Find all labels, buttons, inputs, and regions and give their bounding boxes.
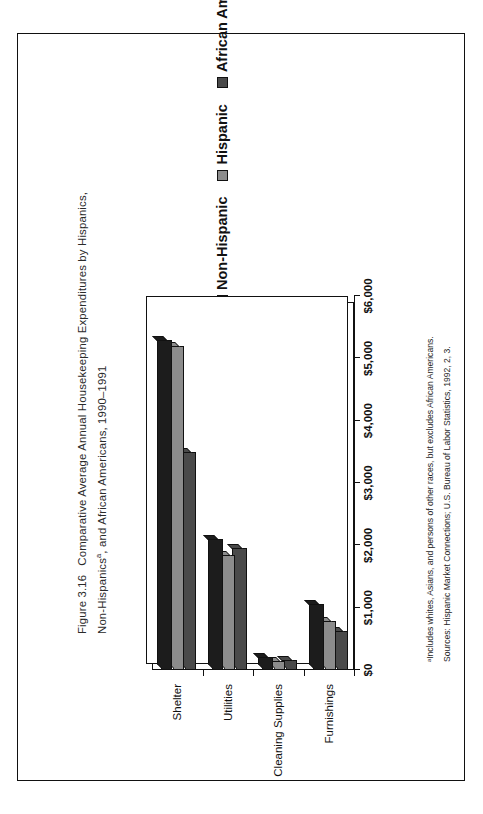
value-tick-label: $4,000 [362, 403, 374, 438]
bar-top-face [309, 600, 314, 669]
bar-african-american-cleaning-supplies [286, 660, 297, 670]
bar-non-hispanic-shelter [161, 340, 172, 670]
value-tick-label: $0 [362, 664, 374, 677]
value-tick-label: $3,000 [362, 465, 374, 500]
legend-label-hispanic: Hispanic [214, 104, 230, 164]
value-tick [354, 607, 360, 608]
value-tick-label: $2,000 [362, 528, 374, 563]
caption-line-2: Non-Hispanicsa, and African Americans, 1… [91, 192, 110, 634]
bar-african-american-utilities [236, 548, 247, 670]
bar-hispanic-utilities [224, 555, 235, 670]
legend-swatch-hispanic [217, 170, 228, 181]
category-tick [304, 669, 305, 676]
value-tick-label: $1,000 [362, 590, 374, 625]
bar-african-american-shelter [185, 452, 196, 670]
bar-hispanic-furnishings [325, 621, 336, 670]
category-label: Utilities [222, 684, 234, 721]
figure-notes: ᵃIncludes whites, Asians, and persons of… [422, 336, 456, 662]
category-tick [203, 669, 204, 676]
caption-line-1: Figure 3.16Comparative Average Annual Ho… [74, 192, 91, 634]
footnote-marker: a [94, 554, 103, 558]
legend-item-african-american: African American [214, 0, 230, 88]
value-axis-line [354, 296, 355, 670]
bar-chart: $0$1,000$2,000$3,000$4,000$5,000$6,000 S… [136, 282, 374, 678]
bar-top-face [157, 336, 162, 669]
bar-hispanic-cleaning-supplies [274, 661, 285, 670]
category-tick [354, 669, 355, 676]
category-label: Shelter [171, 684, 183, 720]
value-tick [354, 295, 360, 296]
value-tick [354, 544, 360, 545]
bar-african-american-furnishings [337, 631, 348, 670]
value-tick [354, 420, 360, 421]
caption-text-1: Comparative Average Annual Housekeeping … [76, 192, 88, 566]
legend-item-hispanic: Hispanic [214, 104, 230, 180]
legend-label-non-hispanic: Non-Hispanic [214, 197, 230, 290]
footnote-text: ᵃIncludes whites, Asians, and persons of… [422, 336, 439, 662]
value-tick-label: $6,000 [362, 278, 374, 313]
bar-hispanic-shelter [173, 346, 184, 670]
bar-top-face [208, 535, 213, 669]
category-label: Cleaning Supplies [272, 684, 284, 777]
caption-text-2b: , and African Americans, 1990–1991 [95, 366, 107, 554]
bar-non-hispanic-cleaning-supplies [262, 657, 273, 670]
category-tick [253, 669, 254, 676]
category-label: Furnishings [323, 684, 335, 743]
figure-caption: Figure 3.16Comparative Average Annual Ho… [74, 192, 110, 634]
legend-swatch-african-american [217, 77, 228, 88]
figure-frame: Figure 3.16Comparative Average Annual Ho… [17, 33, 465, 781]
value-tick [354, 357, 360, 358]
bar-non-hispanic-furnishings [313, 604, 324, 670]
value-tick-label: $5,000 [362, 341, 374, 376]
caption-text-2a: Non-Hispanics [95, 558, 107, 634]
legend-label-african-american: African American [214, 0, 230, 72]
value-tick [354, 482, 360, 483]
figure-number: Figure 3.16 [76, 575, 88, 634]
source-text: Sources: Hispanic Market Connections; U.… [439, 336, 456, 662]
chart-legend: Non-Hispanic Hispanic African American [214, 0, 230, 306]
bar-non-hispanic-utilities [212, 539, 223, 670]
